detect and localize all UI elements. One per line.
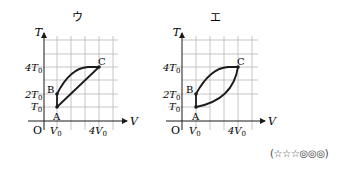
x-tick-v0: V0 [189, 125, 201, 138]
grid [30, 36, 118, 130]
point-a-label: A [52, 111, 61, 122]
cycle-path [57, 67, 99, 107]
panel-label: ウ [72, 11, 83, 24]
point-c-label: C [237, 56, 245, 67]
y-axis-label: T [173, 26, 182, 39]
x-tick-v0: V0 [50, 125, 62, 138]
y-tick-4t0: 4T0 [24, 62, 43, 75]
svg-text:T0: T0 [31, 101, 42, 114]
panel-u: ウ T V O 4T0 2T0 T0 [24, 11, 139, 138]
svg-text:4V0: 4V0 [227, 125, 246, 138]
point-a-label: A [191, 111, 200, 122]
x-tick-4v0: 4V0 [227, 125, 246, 138]
y-tick-t0: T0 [169, 101, 180, 114]
x-axis-label: V [130, 115, 139, 128]
difficulty-rating: (☆☆☆◎◎◎) [270, 148, 328, 159]
origin-label: O [171, 124, 180, 137]
point-a [194, 105, 198, 109]
origin-label: O [33, 124, 42, 137]
x-tick-4v0: 4V0 [88, 125, 107, 138]
point-b [55, 92, 59, 96]
svg-text:4T0: 4T0 [24, 62, 43, 75]
point-b [194, 92, 198, 96]
y-tick-4t0: 4T0 [162, 62, 181, 75]
diagram-stage: ウ T V O 4T0 2T0 T0 [0, 0, 359, 171]
y-axis-label: T [35, 26, 44, 39]
x-axis-label: V [268, 115, 277, 128]
cycle-path [196, 67, 238, 107]
panel-label: エ [210, 11, 221, 24]
svg-text:V0: V0 [50, 125, 62, 138]
svg-text:4V0: 4V0 [88, 125, 107, 138]
point-a [55, 105, 59, 109]
point-b-label: B [47, 84, 54, 95]
svg-text:4T0: 4T0 [162, 62, 181, 75]
panel-e: エ T V O 4T0 2T0 T0 V0 [162, 11, 277, 138]
point-b-label: B [186, 84, 193, 95]
point-c-label: C [98, 56, 106, 67]
svg-text:T0: T0 [169, 101, 180, 114]
y-tick-t0: T0 [31, 101, 42, 114]
svg-text:V0: V0 [189, 125, 201, 138]
